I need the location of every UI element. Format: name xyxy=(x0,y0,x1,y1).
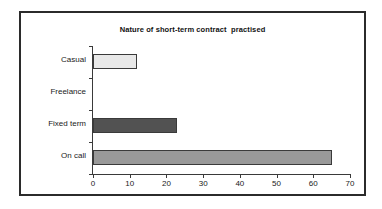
bar xyxy=(93,54,137,69)
x-axis-tick xyxy=(350,174,351,178)
category-band: On call xyxy=(93,142,350,174)
y-axis-tick xyxy=(89,78,93,79)
x-axis-line xyxy=(92,174,351,175)
category-band: Fixed term xyxy=(93,110,350,142)
category-band: Casual xyxy=(93,46,350,78)
x-axis-tick-label: 70 xyxy=(346,179,355,188)
y-axis-tick xyxy=(89,46,93,47)
y-axis-tick xyxy=(89,110,93,111)
y-axis-tick xyxy=(89,142,93,143)
x-axis-tick-label: 20 xyxy=(162,179,171,188)
plot-area: CasualFreelanceFixed termOn call 0102030… xyxy=(93,46,350,174)
chart-title: Nature of short-term contract practised xyxy=(21,25,364,34)
x-axis-tick-label: 0 xyxy=(91,179,95,188)
bar xyxy=(93,150,332,165)
x-axis-tick-label: 10 xyxy=(125,179,134,188)
category-band: Freelance xyxy=(93,78,350,110)
x-axis-tick xyxy=(203,174,204,178)
x-axis-tick-label: 30 xyxy=(199,179,208,188)
bar xyxy=(93,118,177,133)
y-axis-label: On call xyxy=(61,151,86,160)
y-axis-label: Freelance xyxy=(50,87,86,96)
x-axis-tick-label: 60 xyxy=(309,179,318,188)
x-axis-tick xyxy=(277,174,278,178)
chart-screenshot: Nature of short-term contract practised … xyxy=(0,0,382,209)
x-axis-tick-label: 50 xyxy=(272,179,281,188)
y-axis-label: Casual xyxy=(61,55,86,64)
x-axis-tick-label: 40 xyxy=(235,179,244,188)
y-axis-label: Fixed term xyxy=(48,119,86,128)
x-axis-tick xyxy=(240,174,241,178)
chart-frame: Nature of short-term contract practised … xyxy=(19,11,366,196)
x-axis-tick xyxy=(166,174,167,178)
x-axis-tick xyxy=(313,174,314,178)
x-axis-tick xyxy=(130,174,131,178)
x-axis-tick xyxy=(93,174,94,178)
